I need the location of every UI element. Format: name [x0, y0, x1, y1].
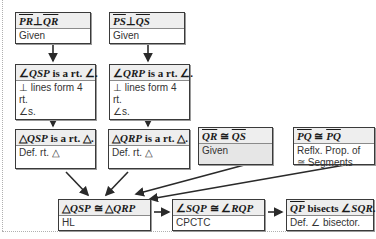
- proof-box-qp-bisects-angle: QP bisects ∠SQR. Def. ∠ bisector.: [286, 199, 374, 231]
- proof-box-triangle-qsp-right: △QSP is a rt. △. Def. rt. △: [15, 129, 96, 169]
- statement: △QRP is a rt. △.: [109, 130, 189, 146]
- reason: Reflx. Prop. of≅ Segments: [294, 144, 374, 170]
- proof-box-given-ps-perp-qs: PS⊥QS Given: [109, 12, 185, 44]
- reason: Given: [16, 29, 90, 43]
- statement: PR⊥QR: [16, 13, 90, 29]
- statement: △QSP ≅ △QRP: [59, 200, 150, 216]
- reason: Def. ∠ bisector.: [287, 216, 373, 230]
- statement: △QSP is a rt. △.: [16, 130, 95, 146]
- proof-box-angles-congruent-cpctc: ∠SQP ≅ ∠RQP CPCTC: [172, 199, 265, 231]
- reason: Def. rt. △: [109, 146, 189, 160]
- statement: ∠QRP is a rt. ∠.: [110, 65, 189, 81]
- statement: ∠QSP is a rt. ∠.: [16, 65, 95, 81]
- reason: HL: [59, 216, 150, 230]
- proof-box-given-qr-cong-qs: QR ≅ QS Given: [198, 127, 273, 165]
- reason: CPCTC: [173, 216, 264, 230]
- proof-box-angle-qsp-right: ∠QSP is a rt. ∠. ⊥ lines form 4 rt.∠s.: [15, 64, 96, 120]
- statement: PQ ≅ PQ: [294, 128, 374, 144]
- proof-box-pq-cong-pq: PQ ≅ PQ Reflx. Prop. of≅ Segments: [293, 127, 375, 165]
- proof-box-triangles-congruent-hl: △QSP ≅ △QRP HL: [58, 199, 151, 231]
- reason: Given: [199, 144, 272, 158]
- reason: ⊥ lines form 4 rt.∠s.: [16, 81, 95, 119]
- reason: ⊥ lines form 4 rt.∠s.: [110, 81, 189, 119]
- reason: Def. rt. △: [16, 146, 95, 160]
- proof-box-given-pr-perp-qr: PR⊥QR Given: [15, 12, 91, 44]
- statement: PS⊥QS: [110, 13, 184, 29]
- proof-box-triangle-qrp-right: △QRP is a rt. △. Def. rt. △: [108, 129, 190, 169]
- proof-box-angle-qrp-right: ∠QRP is a rt. ∠. ⊥ lines form 4 rt.∠s.: [109, 64, 190, 120]
- reason: Given: [110, 29, 184, 43]
- statement: ∠SQP ≅ ∠RQP: [173, 200, 264, 216]
- statement: QP bisects ∠SQR.: [287, 200, 373, 216]
- arrow-b6-b9: [106, 172, 128, 195]
- arrow-b5-b9: [66, 172, 88, 195]
- statement: QR ≅ QS: [199, 128, 272, 144]
